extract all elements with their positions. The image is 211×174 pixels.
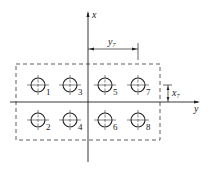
x7-dimension-label: x7 [171, 87, 180, 99]
bolt-number-label: 5 [113, 87, 118, 97]
bolt-6: 6 [94, 110, 118, 132]
bolt-4: 4 [59, 110, 83, 132]
bolt-number-label: 8 [146, 122, 151, 132]
bolt-3: 3 [59, 75, 83, 97]
y7-dimension-label: y7 [107, 36, 116, 48]
bolt-1: 1 [27, 75, 51, 97]
bolt-8: 8 [127, 110, 151, 132]
x7-arrow-top-icon [167, 86, 170, 90]
bolt-5: 5 [94, 75, 118, 97]
x-axis-label: x [91, 9, 97, 20]
y-axis-label: y [193, 103, 199, 114]
y7-arrow-right-icon [132, 48, 137, 51]
x-axis-arrow-icon [87, 11, 90, 17]
bolt-number-label: 6 [113, 122, 118, 132]
bolt-number-label: 3 [78, 87, 83, 97]
bolt-number-label: 4 [78, 122, 83, 132]
y7-arrow-left-icon [89, 48, 94, 51]
bolt-number-label: 2 [46, 122, 51, 132]
bolt-group: 13572468 [27, 75, 151, 132]
bolt-group-diagram: x y y7 x7 13572468 [0, 0, 211, 174]
x7-arrow-bottom-icon [167, 97, 170, 101]
bolt-7: 7 [127, 75, 151, 97]
bolt-number-label: 1 [46, 87, 51, 97]
bolt-2: 2 [27, 110, 51, 132]
bolt-number-label: 7 [146, 87, 151, 97]
